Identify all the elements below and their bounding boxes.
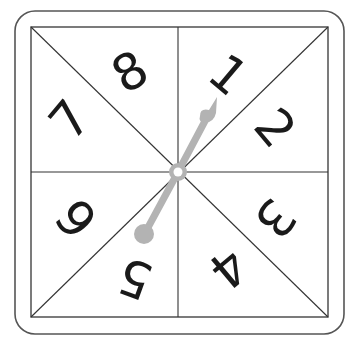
spinner-graphic: 12345678 [0,0,358,346]
needle-tail-knob [134,224,154,244]
needle-hub-hole [174,168,183,177]
spinner-board: 12345678 [0,0,358,346]
